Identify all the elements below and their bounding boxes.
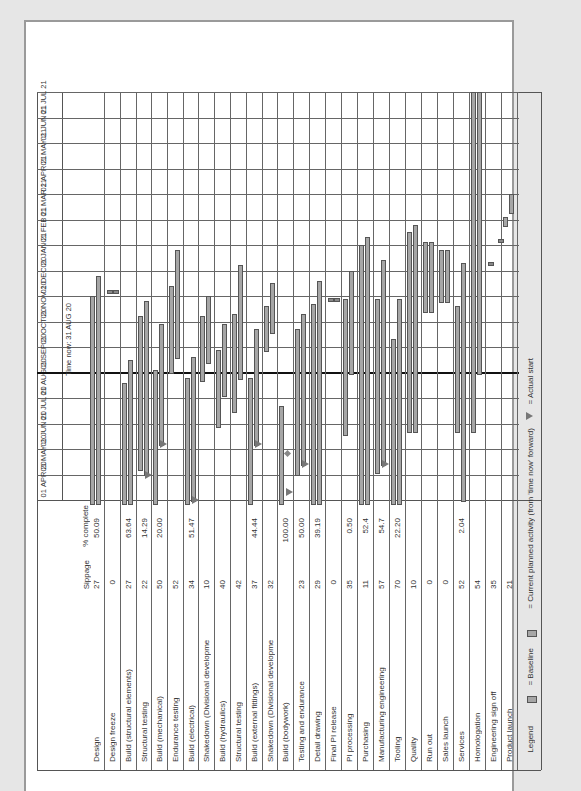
baseline-bar bbox=[423, 242, 428, 313]
baseline-bar bbox=[503, 217, 508, 227]
slippage-value: 37 bbox=[250, 580, 259, 589]
task-label: Structural testing bbox=[140, 640, 149, 762]
row-divider bbox=[277, 92, 278, 770]
table-bottom-border bbox=[37, 770, 541, 771]
month-gridline bbox=[37, 92, 519, 93]
percent-complete-value: 52.4 bbox=[361, 518, 370, 534]
percent-complete-value: 54.7 bbox=[377, 518, 386, 534]
month-gridline bbox=[37, 347, 519, 348]
time-now-label: Time now: 31 AUG 20 bbox=[64, 303, 73, 376]
task-label: Purchasing bbox=[361, 640, 370, 762]
task-label: Build (electrical) bbox=[187, 640, 196, 762]
baseline-bar bbox=[200, 316, 205, 382]
row-divider bbox=[405, 92, 406, 770]
baseline-bar bbox=[439, 250, 444, 303]
task-label: Build (external fittings) bbox=[250, 640, 259, 762]
percent-complete-value: 63.64 bbox=[124, 518, 133, 538]
percent-complete-value: 51.47 bbox=[187, 518, 196, 538]
task-label: Structural testing bbox=[234, 640, 243, 762]
row-divider bbox=[120, 92, 121, 770]
slippage-value: 0 bbox=[329, 580, 338, 584]
slippage-value: 27 bbox=[124, 580, 133, 589]
percent-complete-value: 0.50 bbox=[345, 518, 354, 534]
actual-start-triangle-icon bbox=[302, 460, 309, 468]
slippage-value: 50 bbox=[155, 580, 164, 589]
current-plan-bar bbox=[317, 281, 322, 505]
milestone-marker-icon bbox=[488, 262, 494, 266]
current-plan-bar bbox=[301, 314, 306, 466]
task-label: Homologation bbox=[473, 640, 482, 762]
row-divider bbox=[151, 92, 152, 770]
slippage-value: 29 bbox=[313, 580, 322, 589]
month-gridline bbox=[37, 398, 519, 399]
current-plan-bar bbox=[461, 263, 466, 502]
percent-complete-value: 100.00 bbox=[281, 518, 290, 542]
slippage-value: 57 bbox=[377, 580, 386, 589]
task-label: Services bbox=[457, 640, 466, 762]
baseline-bar bbox=[232, 314, 237, 413]
month-label: 01 MAY 21 bbox=[40, 146, 48, 166]
task-label: Detail drawing bbox=[313, 640, 322, 762]
last-row-divider bbox=[517, 92, 518, 770]
percent-complete-value: 50.00 bbox=[297, 518, 306, 538]
current-plan-bar bbox=[191, 357, 196, 502]
row-divider bbox=[246, 92, 247, 770]
row-divider bbox=[293, 92, 294, 770]
current-plan-bar bbox=[254, 329, 259, 446]
baseline-bar bbox=[138, 316, 143, 471]
legend-title: Legend bbox=[526, 726, 535, 753]
row-divider bbox=[357, 92, 358, 770]
task-label: Build (mechanical) bbox=[155, 640, 164, 762]
month-gridline bbox=[37, 169, 519, 170]
slippage-value: 0 bbox=[441, 580, 450, 584]
legend-baseline-swatch-icon bbox=[527, 696, 537, 703]
baseline-bar bbox=[471, 92, 476, 433]
milestone-marker-icon bbox=[113, 290, 119, 294]
table-right-border bbox=[541, 92, 542, 770]
percent-complete-value: 39.19 bbox=[313, 518, 322, 538]
current-plan-bar bbox=[206, 296, 211, 364]
baseline-bar bbox=[153, 370, 158, 505]
legend-current-label: = Current planned activity (from 'time n… bbox=[526, 428, 535, 609]
current-plan-bar bbox=[222, 324, 227, 397]
task-label: Run out bbox=[425, 640, 434, 762]
slippage-value: 10 bbox=[202, 580, 211, 589]
actual-start-triangle-icon bbox=[255, 440, 262, 448]
slippage-value: 10 bbox=[409, 580, 418, 589]
slippage-value: 22 bbox=[140, 580, 149, 589]
slippage-value: 52 bbox=[171, 580, 180, 589]
current-plan-bar bbox=[397, 299, 402, 505]
slippage-value: 40 bbox=[218, 580, 227, 589]
row-divider bbox=[325, 92, 326, 770]
row-divider bbox=[373, 92, 374, 770]
task-label: Build (structural elements) bbox=[124, 640, 133, 762]
row-divider bbox=[136, 92, 137, 770]
task-label: Product launch bbox=[505, 640, 514, 762]
milestone-marker-icon bbox=[498, 239, 504, 243]
row-divider bbox=[183, 92, 184, 770]
current-plan-bar bbox=[349, 271, 354, 375]
current-plan-bar bbox=[175, 250, 180, 359]
month-label: 01 DEC 20 bbox=[40, 274, 48, 294]
task-label: Endurance testing bbox=[171, 640, 180, 762]
row-divider bbox=[485, 92, 486, 770]
month-gridline bbox=[37, 424, 519, 425]
month-label: 01 SEP 20 bbox=[40, 350, 48, 370]
baseline-bar bbox=[359, 245, 364, 505]
baseline-bar bbox=[311, 304, 316, 505]
month-label: 01 JUL 21 bbox=[40, 95, 48, 115]
baseline-bar bbox=[216, 350, 221, 429]
legend-current-swatch-icon bbox=[527, 630, 537, 637]
baseline-bar bbox=[407, 232, 412, 433]
actual-start-triangle-icon bbox=[286, 488, 293, 496]
task-label: Engineering sign off bbox=[489, 640, 498, 762]
slippage-value: 0 bbox=[425, 580, 434, 584]
month-label: 01 APR 21 bbox=[40, 172, 48, 192]
slippage-value: 34 bbox=[187, 580, 196, 589]
current-plan-bar bbox=[144, 301, 149, 476]
percent-complete-value: 14.29 bbox=[140, 518, 149, 538]
task-label: Tooling bbox=[393, 640, 402, 762]
month-label: 01 MAY 20 bbox=[40, 452, 48, 472]
month-label: 01 JUL 20 bbox=[40, 401, 48, 421]
